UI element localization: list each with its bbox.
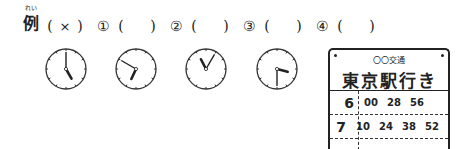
- answer-box-4[interactable]: ( ): [335, 18, 377, 34]
- clock-pin: [204, 67, 207, 70]
- minute: 38: [402, 121, 425, 132]
- item-number-4: ④: [316, 18, 329, 34]
- answer-box-3[interactable]: ( ): [262, 18, 304, 34]
- open-paren: (: [189, 18, 199, 34]
- clock-pin: [275, 67, 278, 70]
- timetable-table: 6 00 28 56 7 10 24 38 52: [328, 90, 450, 149]
- clock-2: [183, 46, 229, 92]
- minute: 10: [356, 121, 379, 132]
- example-kanji: 例: [23, 14, 39, 33]
- row-hour: 7: [330, 119, 350, 135]
- close-paren: ): [75, 18, 85, 34]
- example-label: れい 例: [23, 10, 39, 34]
- timetable-row: 7 10 24 38 52: [330, 115, 448, 139]
- timetable-row: 6 00 28 56: [330, 91, 448, 115]
- timetable-header: 〇〇交通 東京駅行き: [328, 48, 450, 92]
- destination: 東京駅行き: [330, 67, 448, 92]
- minute: 28: [387, 97, 410, 108]
- minute-hand: [121, 61, 136, 70]
- clock-pin: [64, 67, 67, 70]
- clock-row: [0, 46, 330, 106]
- minute: 00: [364, 97, 387, 108]
- close-paren: ): [367, 18, 377, 34]
- clock-3: [254, 46, 300, 92]
- item-number-3: ③: [243, 18, 256, 34]
- timetable-sign: 〇〇交通 東京駅行き 6 00 28 56 7 10 24 38 52: [328, 48, 448, 149]
- item-number-2: ②: [170, 18, 183, 34]
- minute: 24: [379, 121, 402, 132]
- row-minutes: 00 28 56: [358, 97, 433, 108]
- row-minutes: 10 24 38 52: [350, 121, 448, 132]
- clock-pin: [134, 67, 137, 70]
- open-paren: (: [116, 18, 126, 34]
- answer-box-2[interactable]: ( ): [189, 18, 231, 34]
- item-number-1: ①: [97, 18, 110, 34]
- example-ruby: れい: [25, 3, 37, 12]
- minute: 56: [410, 97, 433, 108]
- close-paren: ): [148, 18, 158, 34]
- example-answer: ×: [55, 19, 75, 34]
- row-hour: 6: [330, 95, 358, 111]
- company-name: 〇〇交通: [330, 54, 448, 65]
- close-paren: ): [294, 18, 304, 34]
- minute-hand: [206, 54, 215, 69]
- close-paren: ): [221, 18, 231, 34]
- open-paren: (: [45, 18, 55, 34]
- open-paren: (: [335, 18, 345, 34]
- answer-box-1[interactable]: ( ): [116, 18, 158, 34]
- clock-1: [113, 46, 159, 92]
- example-answer-box: ( × ): [45, 18, 85, 34]
- open-paren: (: [262, 18, 272, 34]
- clock-example: [43, 46, 89, 92]
- minute: 52: [425, 121, 448, 132]
- question-line: れい 例 ( × ) ① ( ) ② ( ) ③ ( ) ④ ( ): [23, 10, 377, 34]
